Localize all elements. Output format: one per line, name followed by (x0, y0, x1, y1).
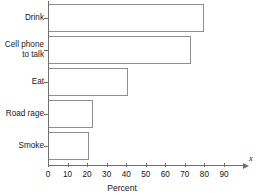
y-axis-tick (44, 18, 49, 19)
x-axis-tick-label: 0 (46, 170, 51, 179)
bar-road-rage (48, 100, 93, 128)
category-label-text: Road rage (0, 109, 44, 119)
category-label-text: Drink (0, 13, 44, 23)
y-axis-line (48, 1, 49, 165)
x-axis-tick (87, 163, 88, 167)
x-axis-tick-label: 20 (83, 170, 92, 179)
x-axis-tick-label: 50 (141, 170, 150, 179)
x-axis-tick-label: 70 (180, 170, 189, 179)
y-axis-tick (44, 114, 49, 115)
x-axis-tick-label: 40 (122, 170, 131, 179)
x-axis-tick-label: 90 (219, 170, 228, 179)
bar-chart: Drink Cell phone to talk Eat Road rage S… (0, 0, 262, 195)
x-axis-tick (165, 163, 166, 167)
x-axis-name: x (249, 153, 253, 163)
x-axis-tick (224, 163, 225, 167)
x-axis-title: Percent (107, 183, 137, 193)
category-label-text: Eat (0, 77, 44, 87)
x-axis-tick (185, 163, 186, 167)
bar-smoke (48, 132, 89, 160)
x-axis-arrowhead (243, 163, 249, 169)
x-axis-tick-label: 80 (200, 170, 209, 179)
bar-drink (48, 4, 204, 32)
x-axis-tick (68, 163, 69, 167)
bar-eat (48, 68, 128, 96)
y-axis-tick (44, 146, 49, 147)
x-axis-tick-label: 10 (63, 170, 72, 179)
x-axis-tick (48, 163, 49, 167)
y-axis-tick (44, 82, 49, 83)
x-axis-tick-label: 30 (102, 170, 111, 179)
x-axis-tick (146, 163, 147, 167)
x-axis-tick (107, 163, 108, 167)
category-label-text: Smoke (0, 141, 44, 151)
x-axis-tick (204, 163, 205, 167)
category-label-text: Cell phone to talk (0, 40, 44, 59)
x-axis-tick (126, 163, 127, 167)
x-axis-tick-label: 60 (161, 170, 170, 179)
bar-cell-phone-to-talk (48, 36, 191, 64)
y-axis-tick (44, 50, 49, 51)
